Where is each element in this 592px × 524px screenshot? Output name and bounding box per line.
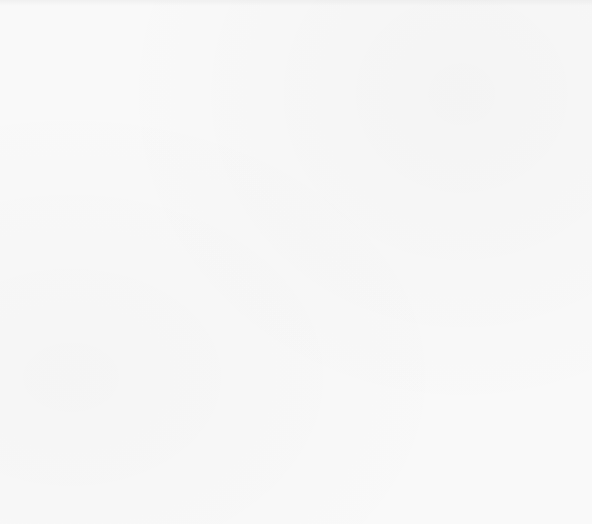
x-axis-line — [84, 468, 410, 477]
gridlines — [84, 20, 414, 404]
line-chart-plot — [0, 0, 592, 524]
series-lines — [84, 62, 410, 431]
